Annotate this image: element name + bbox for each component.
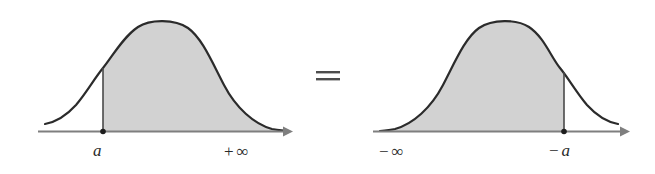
right-axis-arrowhead bbox=[620, 127, 630, 137]
right-axis-label-minus-a-symbol: a bbox=[562, 141, 571, 160]
left-axis-label-a-symbol: a bbox=[93, 141, 102, 160]
normal-curve-symmetry-figure: a +∞ −∞ −a bbox=[0, 0, 655, 174]
right-panel-group bbox=[373, 21, 630, 136]
left-panel-group bbox=[38, 21, 293, 136]
equals-bar-top bbox=[316, 71, 340, 73]
equals-bar-bottom bbox=[316, 78, 340, 80]
right-axis-label-minus-a-operator: − bbox=[549, 141, 562, 160]
equals-sign bbox=[316, 71, 340, 80]
left-axis-label-a: a bbox=[93, 142, 102, 159]
left-tick-dot-a bbox=[100, 129, 106, 135]
right-axis-label-minus-infinity: −∞ bbox=[379, 143, 404, 160]
right-axis-label-infinity-symbol: ∞ bbox=[392, 142, 404, 161]
left-axis-label-plus-infinity: +∞ bbox=[224, 143, 249, 160]
left-axis-label-infinity-symbol: ∞ bbox=[237, 142, 249, 161]
right-axis-label-minus-operator: − bbox=[379, 142, 392, 161]
left-shaded-area bbox=[103, 21, 286, 131]
right-shaded-area bbox=[380, 21, 564, 131]
right-tick-dot-minus-a bbox=[561, 129, 567, 135]
left-axis-label-plus-operator: + bbox=[224, 142, 237, 161]
left-axis-arrowhead bbox=[283, 127, 293, 137]
right-axis-label-minus-a: −a bbox=[549, 142, 570, 159]
